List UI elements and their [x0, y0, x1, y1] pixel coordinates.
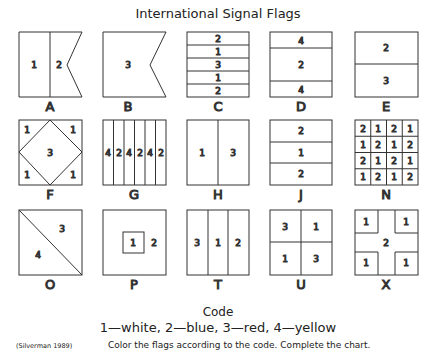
citation: (Silverman 1989) [16, 342, 72, 350]
region-number: 2 [137, 148, 143, 158]
flag-g[interactable]: 4 2 4 2 4 2 G [103, 120, 166, 202]
flag-letter: A [46, 99, 55, 114]
region-number: 3 [125, 60, 131, 70]
region-number: 1 [403, 258, 409, 268]
flag-h[interactable]: 1 3 H [187, 120, 249, 202]
flag-letter: U [296, 277, 306, 292]
region-number: 2 [391, 156, 397, 166]
region-number: 1 [70, 170, 76, 180]
region-number: 2 [360, 156, 366, 166]
region-number: 4 [298, 85, 304, 95]
flag-letter: P [130, 277, 138, 292]
flag-letter: G [129, 187, 139, 202]
region-number: 2 [407, 172, 413, 182]
region-number: 4 [147, 148, 153, 158]
flag-b[interactable]: 3 B [103, 32, 166, 114]
region-number: 2 [158, 148, 164, 158]
region-number: 1 [375, 124, 381, 134]
flag-e[interactable]: 2 3 E [355, 32, 418, 114]
region-number: 2 [116, 148, 122, 158]
region-number: 4 [105, 148, 111, 158]
region-number: 3 [47, 148, 53, 158]
region-number: 2 [383, 43, 389, 53]
flag-letter: H [213, 187, 223, 202]
region-number: 2 [298, 126, 304, 136]
flag-o[interactable]: 3 4 O [19, 210, 82, 292]
region-number: 1 [407, 124, 413, 134]
region-number: 1 [391, 140, 397, 150]
region-number: 1 [215, 47, 221, 57]
region-number: 3 [383, 76, 389, 86]
code-heading: Code [0, 305, 436, 319]
flag-p[interactable]: 1 2 P [103, 210, 166, 292]
flags-grid: 1 2 A 3 B 2 1 3 1 2 C 4 2 4 D 2 3 E [0, 0, 436, 300]
region-number: 1 [403, 217, 409, 227]
region-number: 3 [59, 224, 65, 234]
region-number: 1 [31, 60, 37, 70]
region-number: 2 [375, 172, 381, 182]
region-number: 1 [24, 125, 30, 135]
region-number: 3 [215, 60, 221, 70]
flag-d[interactable]: 4 2 4 D [270, 32, 332, 114]
region-number: 1 [375, 156, 381, 166]
region-number: 2 [383, 238, 389, 248]
region-number: 2 [375, 140, 381, 150]
flag-letter: X [382, 277, 391, 292]
region-number: 1 [363, 217, 369, 227]
region-number: 3 [230, 148, 236, 158]
region-number: 1 [282, 254, 288, 264]
flag-n[interactable]: 2 1 2 1 1 2 1 2 2 1 2 1 1 2 1 2 N [355, 120, 418, 202]
region-number: 1 [407, 156, 413, 166]
region-number: 1 [70, 125, 76, 135]
region-number: 1 [313, 222, 319, 232]
flag-t[interactable]: 3 1 2 T [187, 210, 249, 292]
region-number: 1 [215, 73, 221, 83]
region-number: 2 [298, 60, 304, 70]
flag-f[interactable]: 1 1 3 1 1 F [19, 120, 82, 202]
region-number: 4 [35, 250, 41, 260]
region-number: 2 [151, 238, 157, 248]
instructions: Color the flags according to the code. C… [108, 340, 370, 350]
region-number: 3 [282, 222, 288, 232]
region-number: 2 [360, 124, 366, 134]
flag-letter: F [46, 187, 53, 202]
flag-letter: T [213, 277, 222, 292]
flag-a[interactable]: 1 2 A [19, 32, 82, 114]
region-number: 1 [130, 238, 136, 248]
region-number: 3 [313, 254, 319, 264]
code-legend: 1—white, 2—blue, 3—red, 4—yellow [0, 320, 436, 335]
region-number: 2 [298, 169, 304, 179]
flag-c[interactable]: 2 1 3 1 2 C [187, 32, 249, 114]
flag-letter: O [45, 277, 55, 292]
flag-x[interactable]: 1 1 2 1 1 X [355, 210, 418, 292]
region-number: 1 [363, 258, 369, 268]
region-number: 3 [194, 238, 200, 248]
region-number: 1 [215, 238, 221, 248]
region-number: 1 [360, 172, 366, 182]
region-number: 2 [215, 34, 221, 44]
region-number: 2 [215, 86, 221, 96]
region-number: 4 [126, 148, 132, 158]
region-number: 2 [235, 238, 241, 248]
flag-letter: E [382, 99, 390, 114]
flag-letter: J [298, 187, 303, 202]
flag-letter: D [296, 99, 306, 114]
flag-letter: B [124, 99, 133, 114]
region-number: 1 [360, 140, 366, 150]
flag-u[interactable]: 3 1 1 3 U [270, 210, 332, 292]
region-number: 1 [391, 172, 397, 182]
region-number: 2 [391, 124, 397, 134]
region-number: 4 [298, 36, 304, 46]
region-number: 1 [24, 170, 30, 180]
region-number: 2 [407, 140, 413, 150]
region-number: 1 [199, 148, 205, 158]
region-number: 1 [298, 148, 304, 158]
flag-j[interactable]: 2 1 2 J [270, 120, 332, 202]
flag-letter: N [381, 187, 391, 202]
flag-letter: C [213, 99, 222, 114]
region-number: 2 [56, 60, 62, 70]
